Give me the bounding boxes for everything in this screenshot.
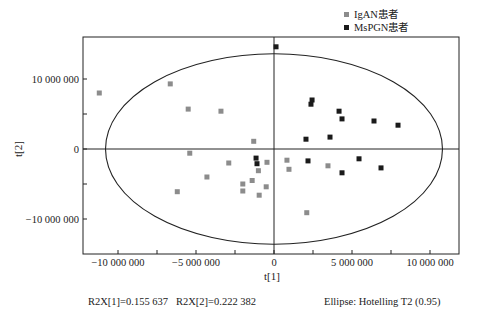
score-scatter-plot: −10 000 000−5 000 00005 000 00010 000 00… (0, 0, 478, 319)
legend-item-igan: IgAN患者 (344, 8, 408, 21)
igan-point (251, 139, 256, 144)
x-tick-label: −5 000 000 (172, 257, 220, 268)
mspgn-point (328, 135, 333, 140)
igan-point (226, 161, 231, 166)
mspgn-point (274, 44, 279, 49)
igan-point (204, 175, 209, 180)
igan-point (257, 193, 262, 198)
x-tick-label: 0 (271, 257, 276, 268)
r2x1-annotation: R2X[1]=0.155 637 (88, 296, 168, 307)
igan-point (240, 189, 245, 194)
mspgn-point (254, 156, 259, 161)
igan-point (256, 168, 261, 173)
igan-point (240, 182, 245, 187)
y-tick-label: 10 000 000 (32, 74, 79, 85)
igan-point (286, 167, 291, 172)
mspgn-point (337, 109, 342, 114)
x-tick-label: 5 000 000 (331, 257, 373, 268)
y-axis-label: t[2] (12, 141, 24, 157)
legend-swatch-igan (344, 12, 349, 17)
mspgn-point (371, 119, 376, 124)
igan-point (187, 151, 192, 156)
data-points (97, 44, 401, 215)
mspgn-point (357, 156, 362, 161)
x-tick-label: 10 000 000 (406, 257, 453, 268)
mspgn-point (340, 116, 345, 121)
axis-ticks: −10 000 000−5 000 00005 000 00010 000 00… (26, 74, 454, 268)
y-tick-label: −10 000 000 (26, 214, 79, 225)
ellipse-annotation: Ellipse: Hotelling T2 (0.95) (324, 296, 440, 307)
igan-point (250, 178, 255, 183)
x-axis-label: t[1] (264, 270, 280, 282)
mspgn-point (303, 137, 308, 142)
igan-point (264, 160, 269, 165)
igan-point (325, 163, 330, 168)
igan-point (284, 158, 289, 163)
igan-point (186, 107, 191, 112)
mspgn-point (306, 158, 311, 163)
mspgn-point (340, 170, 345, 175)
r2x2-annotation: R2X[2]=0.222 382 (176, 296, 256, 307)
igan-point (97, 91, 102, 96)
zero-axis-lines (83, 37, 459, 254)
mspgn-point (396, 123, 401, 128)
y-tick-label: 0 (74, 144, 79, 155)
mspgn-point (254, 161, 259, 166)
mspgn-point (308, 102, 313, 107)
x-tick-label: −10 000 000 (91, 257, 144, 268)
legend-item-mspgn: MsPGN患者 (344, 21, 408, 34)
igan-point (218, 109, 223, 114)
legend-label-igan: IgAN患者 (354, 8, 398, 21)
igan-point (168, 81, 173, 86)
legend: IgAN患者 MsPGN患者 (344, 8, 408, 34)
igan-point (304, 210, 309, 215)
legend-swatch-mspgn (344, 25, 349, 30)
plot-frame (83, 37, 459, 254)
igan-point (264, 184, 269, 189)
igan-point (175, 189, 180, 194)
mspgn-point (379, 165, 384, 170)
legend-label-mspgn: MsPGN患者 (354, 21, 408, 34)
